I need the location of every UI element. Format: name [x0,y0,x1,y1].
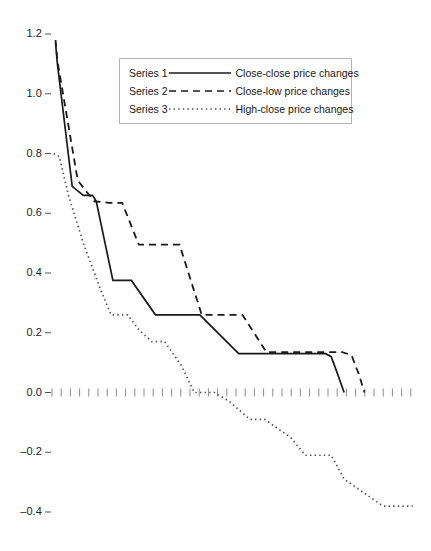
legend-item: Series 2 Close-low price changes [129,82,343,100]
legend-line-sample-dotted [169,103,231,115]
legend-item: Series 1 Close-close price changes [129,64,343,82]
legend: Series 1 Close-close price changes Serie… [119,58,352,124]
legend-line-sample-solid [169,67,231,79]
legend-series-name: Series 3 [129,103,168,115]
series-line-dotted [54,154,413,507]
legend-series-label: Close-close price changes [236,67,359,79]
y-tick-label: 0.0 [0,386,42,398]
y-tick-label: –0.2 [0,445,42,457]
legend-series-name: Series 1 [129,67,168,79]
legend-line-sample-dashed [169,85,231,97]
y-tick-label: 0.8 [0,147,42,159]
y-tick-label: 0.6 [0,206,42,218]
legend-series-label: High-close price changes [236,103,354,115]
y-tick-label: 0.4 [0,266,42,278]
legend-series-label: Close-low price changes [236,85,350,97]
chart-figure: 1.21.00.80.60.40.20.0–0.2–0.4 Series 1 C… [0,0,431,551]
y-tick-label: –0.4 [0,505,42,517]
legend-series-name: Series 2 [129,85,168,97]
legend-item: Series 3 High-close price changes [129,100,343,118]
zero-axis-line [52,389,411,397]
y-tick-label: 0.2 [0,326,42,338]
y-tick-label: 1.2 [0,27,42,39]
y-tick-label: 1.0 [0,87,42,99]
y-axis-ticks [45,34,51,512]
